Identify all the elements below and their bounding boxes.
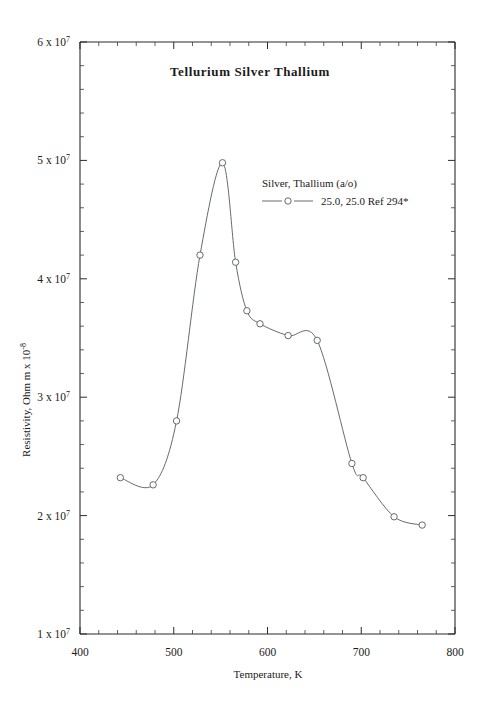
y-axis-label-exponent: -8 [19,343,28,350]
data-point-marker [285,332,291,338]
y-tick-label: 1 x 107 [37,627,70,640]
legend-header: Silver, Thallium (a/o) [262,177,357,190]
legend-sample-marker [285,198,291,204]
tick-labels: 4005006007008001 x 1072 x 1073 x 1074 x … [37,35,464,658]
resistivity-vs-temperature-chart: 4005006007008001 x 1072 x 1073 x 1074 x … [0,0,490,701]
chart-title: Tellurium Silver Thallium [170,64,330,79]
y-axis-label-text: Resistivity, Ohm m x 10 [20,349,32,457]
y-tick-label-mantissa: 4 x 10 [37,273,66,285]
series-group [117,160,425,529]
y-tick-label-exponent: 7 [66,272,70,281]
tick-marks [80,42,455,634]
y-tick-label-exponent: 7 [66,627,70,636]
data-point-marker [117,475,123,481]
series-markers [117,160,425,529]
y-tick-label-exponent: 7 [66,35,70,44]
y-tick-label-exponent: 7 [66,390,70,399]
x-tick-label: 700 [353,646,371,658]
data-point-marker [244,308,250,314]
data-point-marker [219,160,225,166]
data-point-marker [150,482,156,488]
data-point-marker [197,252,203,258]
data-point-marker [419,522,425,528]
data-point-marker [232,259,238,265]
x-axis-label: Temperature, K [234,668,303,680]
data-point-marker [391,514,397,520]
x-tick-label: 600 [259,646,277,658]
y-tick-label-mantissa: 2 x 10 [37,510,66,522]
y-tick-label-mantissa: 6 x 10 [37,36,66,48]
y-tick-label: 2 x 107 [37,509,70,522]
data-point-marker [257,321,263,327]
x-tick-label: 400 [71,646,89,658]
data-point-marker [173,418,179,424]
y-tick-label-mantissa: 3 x 10 [37,391,66,403]
data-point-marker [360,475,366,481]
y-tick-label-mantissa: 5 x 10 [37,154,66,166]
y-tick-label: 5 x 107 [37,153,70,166]
y-axis-label: Resistivity, Ohm m x 10-8 [19,343,32,457]
chart-figure: 4005006007008001 x 1072 x 1073 x 1074 x … [0,0,490,701]
y-axis-label-group: Resistivity, Ohm m x 10-8 [19,343,32,457]
y-tick-label: 3 x 107 [37,390,70,403]
legend: Silver, Thallium (a/o) 25.0, 25.0 Ref 29… [262,177,408,207]
data-point-marker [314,337,320,343]
series-line [120,163,422,525]
y-tick-label: 6 x 107 [37,35,70,48]
y-tick-label-exponent: 7 [66,509,70,518]
y-tick-label-exponent: 7 [66,153,70,162]
y-tick-label: 4 x 107 [37,272,70,285]
x-tick-label: 500 [165,646,183,658]
plot-axes [80,42,455,634]
y-tick-label-mantissa: 1 x 10 [37,628,66,640]
x-tick-label: 800 [446,646,464,658]
legend-series-label: 25.0, 25.0 Ref 294* [321,195,408,207]
data-point-marker [349,460,355,466]
